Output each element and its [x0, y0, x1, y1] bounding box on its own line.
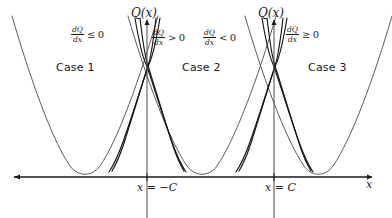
deriv-case-2-right: dQ dx < 0 — [203, 29, 236, 47]
parabola-group — [12, 16, 392, 174]
region-label-case-2: Case 2 — [182, 62, 221, 73]
deriv-case-1: dQ dx ≤ 0 — [71, 26, 104, 44]
deriv-case-2-right-fraction: dQ dx — [203, 29, 216, 47]
diagram-canvas — [0, 0, 392, 218]
tick-label-minus-c: x = −C — [137, 182, 177, 193]
deriv-case-2-left-value: 0 — [179, 33, 185, 43]
deriv-case-1-relation: ≤ — [87, 30, 95, 40]
deriv-case-3-numerator: dQ — [286, 26, 299, 35]
deriv-case-2-right-relation: < — [219, 33, 227, 43]
deriv-case-3: dQ dx ≥ 0 — [286, 26, 319, 44]
steep-curve-right-inner-b — [239, 18, 283, 171]
deriv-case-2-left-relation: > — [168, 33, 176, 43]
q-axis-right-label: Q(x) — [258, 7, 284, 19]
x-axis-left-arrowhead — [14, 174, 20, 179]
region-label-case-3: Case 3 — [308, 62, 347, 73]
q-case-diagram: Q(x) Q(x) dQ dx ≤ 0 dQ dx > 0 dQ dx < 0 … — [0, 0, 392, 218]
deriv-case-3-value: 0 — [313, 30, 319, 40]
deriv-case-2-right-denominator: dx — [204, 38, 215, 46]
deriv-case-3-denominator: dx — [287, 35, 298, 43]
region-label-case-1: Case 1 — [56, 62, 95, 73]
deriv-case-2-left-numerator: dQ — [152, 29, 165, 38]
x-axis-name-label: x — [366, 179, 372, 190]
deriv-case-1-value: 0 — [98, 30, 104, 40]
x-axis-group — [14, 174, 372, 179]
deriv-case-1-numerator: dQ — [71, 26, 84, 35]
deriv-case-2-left: dQ dx > 0 — [152, 29, 185, 47]
deriv-case-3-fraction: dQ dx — [286, 26, 299, 44]
steep-curve-left-inner-b — [112, 18, 156, 171]
deriv-case-2-right-value: 0 — [230, 33, 236, 43]
parabola-middle — [128, 16, 276, 174]
deriv-case-2-left-fraction: dQ dx — [152, 29, 165, 47]
tick-label-plus-c: x = C — [265, 182, 296, 193]
q-axis-left-label: Q(x) — [131, 7, 157, 19]
deriv-case-1-denominator: dx — [72, 35, 83, 43]
deriv-case-2-left-denominator: dx — [153, 38, 164, 46]
deriv-case-1-fraction: dQ dx — [71, 26, 84, 44]
steep-curve-right-mirror — [236, 18, 287, 172]
deriv-case-3-relation: ≥ — [302, 30, 310, 40]
deriv-case-2-right-numerator: dQ — [203, 29, 216, 38]
